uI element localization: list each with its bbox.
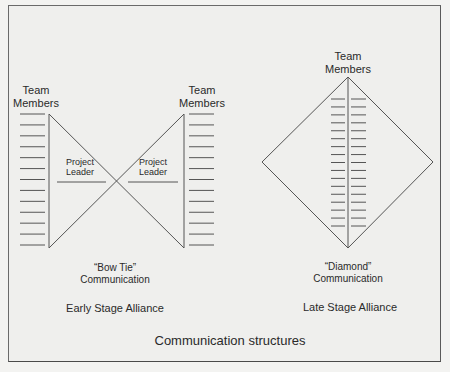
team-members-label-left: Team Members	[12, 84, 60, 109]
team-member-stack-right	[189, 114, 214, 245]
team-label-line1: Team	[12, 84, 60, 97]
diamond-caption-word: Communication	[303, 273, 393, 285]
bow-tie-caption-quote: “Bow Tie”	[70, 262, 160, 274]
team-members-label-diamond: Team Members	[318, 50, 378, 75]
project-leader-label-right: Project Leader	[133, 157, 173, 178]
leader-label-line2: Leader	[133, 167, 173, 177]
diagram-title: Communication structures	[140, 334, 320, 349]
team-label-line2: Members	[12, 97, 60, 110]
leader-label-line1: Project	[60, 157, 100, 167]
team-label-line1: Team	[318, 50, 378, 63]
team-label-line2: Members	[318, 63, 378, 76]
diamond-shape	[262, 77, 433, 248]
bow-tie-shape	[49, 114, 184, 248]
bow-tie-caption-word: Communication	[70, 274, 160, 286]
leader-label-line1: Project	[133, 157, 173, 167]
late-stage-label: Late Stage Alliance	[290, 301, 410, 314]
diagram-canvas	[0, 0, 450, 372]
team-members-label-right: Team Members	[178, 84, 226, 109]
diamond-caption: “Diamond” Communication	[303, 261, 393, 284]
diamond-caption-quote: “Diamond”	[303, 261, 393, 273]
leader-label-line2: Leader	[60, 167, 100, 177]
bow-tie-caption: “Bow Tie” Communication	[70, 262, 160, 285]
project-leader-label-left: Project Leader	[60, 157, 100, 178]
team-label-line1: Team	[178, 84, 226, 97]
early-stage-label: Early Stage Alliance	[55, 302, 175, 315]
team-label-line2: Members	[178, 97, 226, 110]
team-member-stack-left	[20, 114, 45, 245]
